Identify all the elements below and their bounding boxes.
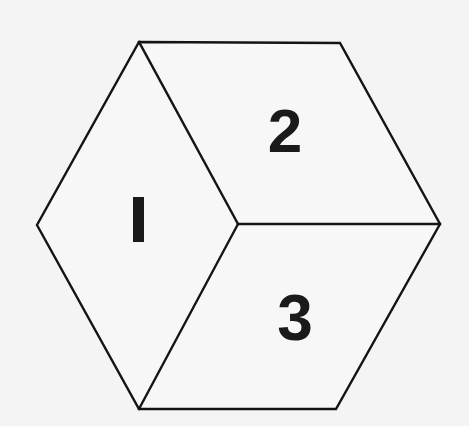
face-3-label: 3 [277, 282, 313, 354]
face-2-label: 2 [268, 96, 302, 165]
face-1-label: 1 [121, 188, 154, 255]
cube-svg: 1 2 3 [0, 0, 469, 426]
cube-diagram: 1 2 3 [0, 0, 469, 426]
